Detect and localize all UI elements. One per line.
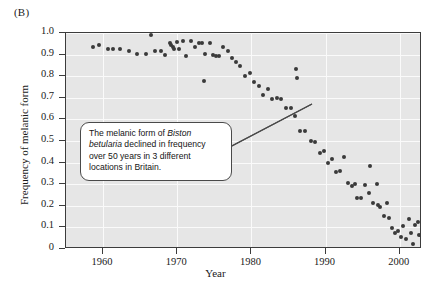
gridline-vertical [326, 33, 327, 247]
data-point [375, 182, 379, 186]
x-axis-title: Year [0, 267, 431, 279]
data-point [294, 67, 298, 71]
data-point [118, 47, 122, 51]
callout-text-1: The melanic form of [89, 128, 167, 138]
data-point [221, 45, 225, 49]
gridline-horizontal [66, 206, 420, 207]
data-point [91, 45, 95, 49]
gridline-horizontal [66, 184, 420, 185]
x-tick-mark [176, 248, 177, 254]
data-point [230, 56, 234, 60]
data-point [289, 106, 293, 110]
data-point [338, 169, 342, 173]
data-point [266, 87, 270, 91]
data-point [322, 149, 326, 153]
y-tick-label: 0 [49, 241, 54, 252]
y-axis-title: Frequency of melanic form [18, 65, 30, 225]
y-tick-label: 1.0 [41, 25, 54, 36]
data-point [385, 201, 389, 205]
x-tick-mark [399, 248, 400, 254]
data-point [177, 47, 181, 51]
y-tick-label: 0.5 [41, 133, 54, 144]
x-tick-label: 2000 [377, 256, 421, 267]
y-tick-label: 0.2 [41, 198, 54, 209]
data-point [243, 74, 247, 78]
y-tick-mark [59, 248, 65, 249]
data-point [407, 217, 411, 221]
data-point [208, 41, 212, 45]
data-point [135, 52, 139, 56]
callout-text-4: locations in Britain. [89, 162, 161, 172]
data-point [159, 49, 163, 53]
data-point [202, 79, 206, 83]
data-point [184, 54, 188, 58]
data-point [270, 97, 274, 101]
data-point [298, 129, 302, 133]
data-point [261, 93, 265, 97]
gridline-vertical [251, 33, 252, 247]
data-point [411, 242, 415, 246]
data-point [217, 54, 221, 58]
data-point [342, 155, 346, 159]
data-point [127, 49, 131, 53]
data-point [371, 201, 375, 205]
data-point [396, 229, 400, 233]
data-point [416, 220, 420, 224]
gridline-horizontal [66, 55, 420, 56]
data-point [284, 106, 288, 110]
data-point [153, 49, 157, 53]
y-tick-label: 0.4 [41, 155, 54, 166]
data-point [163, 53, 167, 57]
data-point [378, 205, 382, 209]
gridline-horizontal [66, 98, 420, 99]
data-point [257, 84, 261, 88]
data-point [367, 191, 371, 195]
data-point [111, 47, 115, 51]
x-tick-label: 1960 [80, 256, 124, 267]
data-point [399, 235, 403, 239]
gridline-vertical [400, 33, 401, 247]
data-point [326, 161, 330, 165]
data-point [175, 40, 179, 44]
data-point [238, 64, 242, 68]
y-tick-label: 0.8 [41, 68, 54, 79]
data-point [303, 129, 307, 133]
gridline-horizontal [66, 119, 420, 120]
data-point [189, 39, 193, 43]
data-point [279, 97, 283, 101]
x-tick-label: 1990 [303, 256, 347, 267]
data-point [355, 196, 359, 200]
callout-annotation: The melanic form of Biston betularia dec… [80, 122, 232, 181]
data-point [318, 151, 322, 155]
species-name-genus: Biston [167, 128, 191, 138]
data-point [330, 157, 334, 161]
x-tick-mark [102, 248, 103, 254]
x-tick-label: 1970 [154, 256, 198, 267]
data-point [409, 231, 413, 235]
data-point [200, 41, 204, 45]
species-name-epithet: betularia [89, 139, 122, 149]
data-point [359, 196, 363, 200]
y-tick-label: 0.9 [41, 47, 54, 58]
data-point [309, 139, 313, 143]
data-point [144, 52, 148, 56]
data-point [181, 39, 185, 43]
data-point [293, 114, 297, 118]
y-tick-label: 0.6 [41, 111, 54, 122]
data-point [353, 182, 357, 186]
data-point [368, 164, 372, 168]
y-tick-label: 0.7 [41, 90, 54, 101]
y-tick-label: 0.1 [41, 219, 54, 230]
gridline-horizontal [66, 33, 420, 34]
x-tick-label: 1980 [228, 256, 272, 267]
data-point [226, 49, 230, 53]
data-point [106, 47, 110, 51]
data-point [363, 183, 367, 187]
data-point [172, 47, 176, 51]
x-tick-mark [325, 248, 326, 254]
y-tick-label: 0.3 [41, 176, 54, 187]
data-point [193, 45, 197, 49]
callout-text-2: declined in frequency [122, 139, 206, 149]
x-tick-mark [250, 248, 251, 254]
callout-text-3: over 50 years in 3 different [89, 151, 191, 161]
